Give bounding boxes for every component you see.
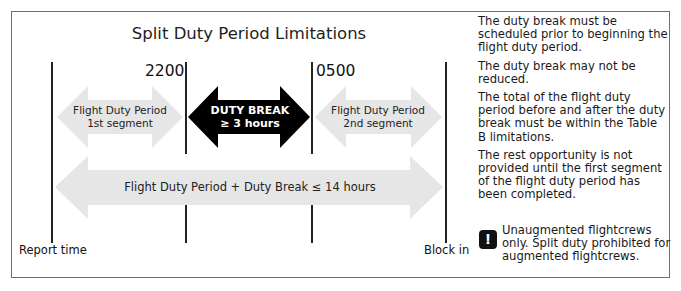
report-time-line bbox=[51, 62, 53, 243]
note-item: The duty break may not be reduced. bbox=[478, 60, 668, 86]
time-2200: 2200 bbox=[145, 62, 184, 80]
break-start-line bbox=[185, 62, 187, 154]
warning-text: Unaugmented flightcrews only. Split duty… bbox=[502, 224, 672, 264]
duty-break-label: DUTY BREAK ≥ 3 hours bbox=[195, 104, 305, 130]
break-end-line bbox=[311, 62, 313, 154]
note-item: The duty break must be scheduled prior t… bbox=[478, 15, 668, 55]
note-item: The rest opportunity is not provided unt… bbox=[478, 149, 668, 202]
break-start-line-lower bbox=[185, 205, 187, 243]
time-0500: 0500 bbox=[316, 62, 355, 80]
segment2-label: Flight Duty Period 2nd segment bbox=[318, 104, 438, 130]
block-in-label: Block in bbox=[424, 243, 469, 257]
note-item: The total of the flight duty period befo… bbox=[478, 91, 668, 144]
break-end-line-lower bbox=[311, 205, 313, 243]
total-label: Flight Duty Period + Duty Break ≤ 14 hou… bbox=[60, 181, 440, 194]
notes-list: The duty break must be scheduled prior t… bbox=[478, 15, 668, 207]
exclamation-icon: ! bbox=[479, 230, 497, 249]
block-in-line bbox=[445, 62, 447, 243]
segment1-label: Flight Duty Period 1st segment bbox=[60, 104, 180, 130]
report-time-label: Report time bbox=[19, 243, 87, 257]
